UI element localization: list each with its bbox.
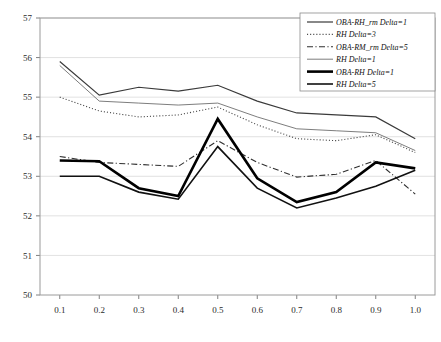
y-tick-label: 55 (23, 92, 33, 102)
y-tick-label: 56 (23, 53, 33, 63)
y-tick-label: 54 (23, 132, 33, 142)
y-tick-label: 52 (23, 211, 32, 221)
x-tick-label: 0.9 (370, 305, 382, 315)
legend-label-3: RH Delta=1 (335, 55, 376, 64)
x-tick-label: 0.3 (133, 305, 145, 315)
x-tick-label: 0.7 (291, 305, 303, 315)
y-tick-label: 53 (23, 171, 33, 181)
x-tick-label: 0.6 (252, 305, 264, 315)
x-tick-label: 0.4 (173, 305, 185, 315)
chart-legend: OBA-RH_rm Delta=1RH Delta=3OBA-RM_rm Del… (300, 13, 435, 91)
x-tick-label: 0.1 (54, 305, 65, 315)
line-chart: 5051525354555657 0.10.20.30.40.50.60.70.… (0, 0, 441, 342)
y-tick-label: 50 (23, 290, 33, 300)
legend-label-1: RH Delta=3 (335, 30, 376, 39)
x-axis-tick-labels: 0.10.20.30.40.50.60.70.80.91.0 (54, 305, 421, 315)
y-axis-tick-marks (36, 18, 40, 295)
chart-container: 5051525354555657 0.10.20.30.40.50.60.70.… (0, 0, 441, 342)
legend-label-5: RH Delta=5 (335, 80, 376, 89)
x-tick-label: 0.8 (331, 305, 343, 315)
x-tick-label: 0.2 (94, 305, 105, 315)
y-tick-label: 57 (23, 13, 33, 23)
x-tick-label: 1.0 (410, 305, 422, 315)
legend-label-2: OBA-RM_rm Delta=5 (336, 43, 408, 52)
y-tick-label: 51 (23, 251, 32, 261)
legend-label-0: OBA-RH_rm Delta=1 (336, 18, 407, 27)
x-axis-tick-marks (60, 295, 416, 299)
x-tick-label: 0.5 (212, 305, 224, 315)
legend-label-4: OBA-RH Delta=1 (336, 68, 394, 77)
y-axis-tick-labels: 5051525354555657 (23, 13, 33, 300)
